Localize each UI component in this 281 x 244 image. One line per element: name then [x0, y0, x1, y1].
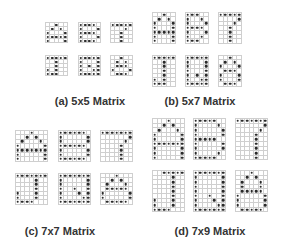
- matrix-b-J: [152, 55, 176, 87]
- panel-c-label: (c) 7x7 Matrix: [25, 225, 95, 237]
- dot-off: [87, 157, 92, 161]
- matrix-c-B: [58, 130, 91, 162]
- matrix-c-A: [15, 130, 48, 162]
- matrix-c-&: [100, 173, 133, 205]
- dot-off: [237, 82, 242, 86]
- dot-on: [181, 156, 186, 161]
- dot-off: [181, 208, 186, 213]
- dot-on: [171, 39, 176, 43]
- dot-on: [97, 72, 101, 76]
- matrix-d-&: [235, 170, 268, 212]
- panel-d-label: (d) 7x9 Matrix: [175, 225, 246, 237]
- dot-off: [129, 39, 133, 43]
- dot-on: [222, 208, 227, 213]
- matrix-c-J: [15, 173, 48, 205]
- matrix-d-B: [193, 118, 226, 160]
- dot-off: [129, 200, 134, 204]
- dot-off: [97, 39, 101, 43]
- matrix-a-&: [110, 55, 133, 76]
- matrix-d-Q: [193, 170, 226, 212]
- matrix-c-7: [100, 130, 133, 162]
- dot-off: [264, 208, 269, 213]
- dot-off: [264, 156, 269, 161]
- dot-off: [171, 82, 176, 86]
- matrix-b-Q: [185, 55, 209, 87]
- dot-off: [44, 200, 49, 204]
- dot-off: [204, 39, 209, 43]
- dot-off: [129, 157, 134, 161]
- matrix-b-B: [185, 12, 209, 44]
- matrix-a-Q: [78, 55, 101, 76]
- panel-a-label: (a) 5x5 Matrix: [55, 95, 125, 107]
- matrix-b-A: [152, 12, 176, 44]
- dot-on: [87, 200, 92, 204]
- panel-b-label: (b) 5x7 Matrix: [165, 95, 236, 107]
- matrix-d-J: [152, 170, 185, 212]
- dot-on: [44, 157, 49, 161]
- dot-off: [129, 72, 133, 76]
- matrix-a-7: [110, 22, 133, 43]
- dot-off: [237, 39, 242, 43]
- matrix-d-A: [152, 118, 185, 160]
- matrix-b-7: [218, 12, 242, 44]
- dot-off: [222, 156, 227, 161]
- matrix-a-A: [45, 22, 68, 43]
- dot-on: [204, 82, 209, 86]
- matrix-d-7: [235, 118, 268, 160]
- matrix-a-B: [78, 22, 101, 43]
- matrix-b-&: [218, 55, 242, 87]
- matrix-c-Q: [58, 173, 91, 205]
- matrix-a-J: [45, 55, 68, 76]
- dot-off: [64, 72, 68, 76]
- dot-on: [64, 39, 68, 43]
